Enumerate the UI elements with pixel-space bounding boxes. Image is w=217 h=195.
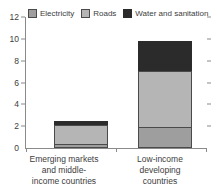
y-tick-label-2: 2 xyxy=(14,122,19,131)
x-axis-label-emerging-markets: Emerging markets and middle- income coun… xyxy=(12,154,116,187)
y-tick-mark-right-12 xyxy=(207,17,211,18)
y-tick-label-10: 10 xyxy=(10,34,19,43)
x-axis-label-emerging-markets-line2: and middle- xyxy=(12,165,116,176)
x-axis-label-low-income-developing-line2: developing xyxy=(114,165,206,176)
bar-segment-electricity-low-income-developing[interactable] xyxy=(138,127,192,148)
y-tick-mark-left-2 xyxy=(21,126,25,127)
y-tick-mark-right-2 xyxy=(207,126,211,127)
bar-low-income-developing[interactable] xyxy=(138,41,192,148)
y-tick-mark-right-4 xyxy=(207,104,211,105)
bar-emerging-markets[interactable] xyxy=(54,121,108,148)
bar-segment-water-and-sanitation-emerging-markets[interactable] xyxy=(54,121,108,125)
y-tick-mark-right-6 xyxy=(207,82,211,83)
bar-segment-roads-low-income-developing[interactable] xyxy=(138,71,192,128)
x-axis-label-low-income-developing-line3: countries xyxy=(114,176,206,187)
x-tick-mark-middle xyxy=(116,148,117,152)
plot-area: 12 10 8 6 4 2 0 xyxy=(26,17,206,148)
y-tick-label-6: 6 xyxy=(14,78,19,87)
x-axis-label-emerging-markets-line3: income countries xyxy=(12,176,116,187)
y-tick-mark-left-6 xyxy=(21,82,25,83)
y-tick-mark-left-8 xyxy=(21,60,25,61)
x-axis-label-emerging-markets-line1: Emerging markets xyxy=(12,154,116,165)
y-tick-mark-right-8 xyxy=(207,60,211,61)
y-tick-label-0: 0 xyxy=(14,144,19,153)
y-tick-mark-left-12 xyxy=(21,17,25,18)
y-tick-mark-left-4 xyxy=(21,104,25,105)
x-tick-mark-right xyxy=(206,148,207,152)
bar-segment-roads-emerging-markets[interactable] xyxy=(54,125,108,144)
x-axis-label-low-income-developing-line1: Low-income xyxy=(114,154,206,165)
y-tick-mark-left-10 xyxy=(21,38,25,39)
bar-segment-water-and-sanitation-low-income-developing[interactable] xyxy=(138,41,192,71)
y-tick-label-8: 8 xyxy=(14,56,19,65)
x-axis-label-low-income-developing: Low-income developing countries xyxy=(114,154,206,187)
x-tick-mark-left xyxy=(26,148,27,152)
y-tick-label-12: 12 xyxy=(10,13,19,22)
y-tick-label-4: 4 xyxy=(14,100,19,109)
stacked-bar-chart: Electricity Roads Water and sanitation 1… xyxy=(0,0,217,195)
bar-segment-electricity-emerging-markets[interactable] xyxy=(54,144,108,148)
y-tick-mark-right-10 xyxy=(207,38,211,39)
